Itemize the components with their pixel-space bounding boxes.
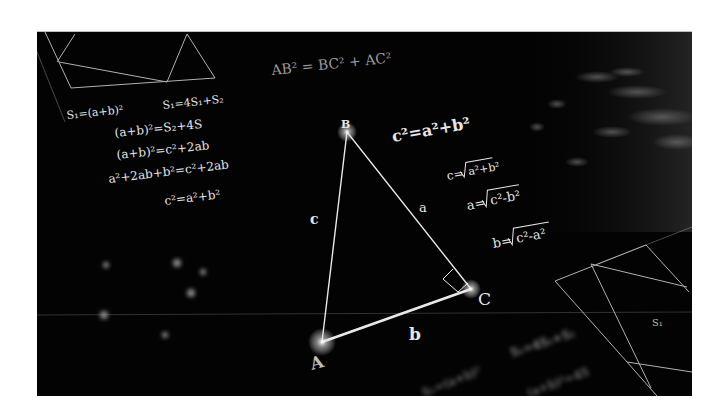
vertex-b-label: B — [341, 118, 350, 131]
formula-left-0: S₁=(a+b)² — [66, 103, 124, 122]
pythagorean-illustration: AB² = BC² + AC² S₁=(a+b)² S₁=4S₁+S₂ (a+b… — [37, 31, 692, 396]
formula-b: b= c²-a² — [491, 222, 552, 251]
side-a-label: a — [419, 200, 427, 215]
svg-text:b=: b= — [491, 233, 513, 251]
formula-bottom-2: (a+b)²=4S — [525, 364, 591, 396]
formula-left-4: a²+2ab+b²=c²+2ab — [108, 157, 230, 186]
right-triangle — [308, 122, 481, 356]
side-c-label: c — [310, 211, 319, 227]
svg-text:c²-b²: c²-b² — [489, 188, 522, 208]
formula-bottom-1: S₁=(a+b)² — [420, 363, 483, 396]
svg-text:c=: c= — [446, 166, 465, 183]
formula-top: AB² = BC² + AC² — [270, 49, 393, 78]
illustration-canvas: AB² = BC² + AC² S₁=(a+b)² S₁=4S₁+S₂ (a+b… — [37, 32, 692, 396]
formula-c: c= a²+b² — [445, 157, 501, 183]
formula-right-main: c²=a²+b² — [390, 113, 471, 145]
svg-text:a=: a= — [465, 195, 486, 213]
formula-bottom-0: S₁=4S₁+S₂ — [509, 326, 577, 360]
bottom-formulas: S₁=4S₁+S₂ S₁=(a+b)² (a+b)²=4S — [420, 326, 591, 396]
horizon-line — [37, 312, 692, 315]
vertex-c-label: C — [478, 289, 491, 309]
side-b-label: b — [409, 324, 421, 344]
formula-left-1: S₁=4S₁+S₂ — [162, 93, 224, 112]
diagram-label: S₁ — [652, 317, 663, 328]
bokeh-dots — [100, 259, 206, 338]
bokeh-haze — [517, 32, 692, 232]
left-formulas: S₁=(a+b)² S₁=4S₁+S₂ (a+b)²=S₂+4S (a+b)²=… — [66, 93, 230, 208]
svg-text:a²+b²: a²+b² — [467, 160, 500, 178]
vertex-a-glow — [308, 328, 336, 356]
formula-a: a= c²-b² — [465, 185, 522, 213]
formula-left-2: (a+b)²=S₂+4S — [114, 117, 203, 140]
formula-left-5: c²=a²+b² — [164, 187, 222, 208]
formula-left-3: (a+b)²=c²+2ab — [116, 138, 210, 162]
